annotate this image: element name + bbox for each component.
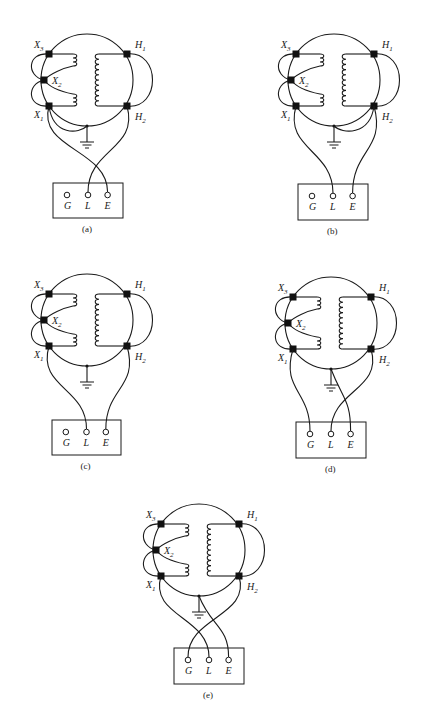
terminal-h1 <box>124 51 131 58</box>
jack-e <box>348 431 354 437</box>
jack-g <box>309 193 315 199</box>
diagram-canvas: X3X2X1H1H2GLE(a)X3X2X1H1H2GLE(b)X3X2X1H1… <box>0 0 425 711</box>
panel-caption: (c) <box>81 461 91 471</box>
panel-d: X3X2X1H1H2GLE(d) <box>275 277 396 474</box>
terminal-x3 <box>46 291 53 298</box>
label-x1: X1 <box>33 349 44 363</box>
label-h1: H1 <box>134 279 146 293</box>
jack-label-l: L <box>205 665 212 676</box>
label-h1: H1 <box>246 509 258 523</box>
label-x3: X3 <box>277 282 288 296</box>
panel-caption: (e) <box>203 690 213 700</box>
label-x3: X3 <box>280 39 291 53</box>
lead-x1-ground <box>49 106 87 131</box>
jack-label-l: L <box>327 439 334 450</box>
lead-l-x1 <box>159 576 209 657</box>
jack-label-e: E <box>102 437 109 448</box>
label-h1: H1 <box>381 39 393 53</box>
lead-l-x1 <box>294 106 333 193</box>
jack-label-g: G <box>309 201 316 212</box>
lead-g-x1 <box>290 349 310 431</box>
terminal-h1 <box>371 51 378 58</box>
jack-label-e: E <box>225 665 232 676</box>
terminal-h1 <box>368 294 375 301</box>
label-x1: X1 <box>33 109 44 123</box>
terminal-x2 <box>288 77 295 84</box>
jack-label-g: G <box>185 665 192 676</box>
terminal-x2 <box>153 547 160 554</box>
jack-label-g: G <box>63 437 70 448</box>
jumper-h1-h2 <box>127 294 153 346</box>
lead-e-x1 <box>48 106 108 192</box>
panel-caption: (d) <box>325 464 336 474</box>
jack-e <box>103 429 109 435</box>
jack-l <box>206 657 212 663</box>
jack-label-e: E <box>349 201 356 212</box>
lead-e-h2 <box>353 106 377 193</box>
terminal-x3 <box>290 294 297 301</box>
jack-l <box>84 429 90 435</box>
jack-g <box>63 429 69 435</box>
jack-l <box>330 193 336 199</box>
jack-g <box>185 657 191 663</box>
label-x3: X3 <box>33 279 44 293</box>
panel-a: X3X2X1H1H2GLE(a) <box>31 34 152 234</box>
jack-label-g: G <box>307 439 314 450</box>
terminal-h1 <box>236 521 243 528</box>
terminal-x2 <box>285 320 292 327</box>
panel-b: X3X2X1H1H2GLE(b) <box>278 34 399 236</box>
terminal-x2 <box>41 77 48 84</box>
jumper-h1-h2 <box>371 297 397 349</box>
panel-e: X3X2X1H1H2GLE(e) <box>143 504 264 700</box>
label-h2: H2 <box>134 111 146 125</box>
jack-g <box>64 192 70 198</box>
jack-e <box>226 657 232 663</box>
jack-e <box>105 192 111 198</box>
jack-label-l: L <box>83 437 90 448</box>
label-x1: X1 <box>145 579 156 593</box>
lead-e-h2 <box>106 346 130 429</box>
jack-g <box>307 431 313 437</box>
jack-l <box>85 192 91 198</box>
ground-icon <box>80 366 94 388</box>
terminal-h1 <box>124 291 131 298</box>
jack-l <box>328 431 334 437</box>
jack-e <box>350 193 356 199</box>
jack-label-e: E <box>104 200 111 211</box>
jumper-h1-h2 <box>239 524 265 576</box>
lead-l-x1 <box>47 346 86 429</box>
label-x3: X3 <box>145 509 156 523</box>
panel-caption: (b) <box>327 226 338 236</box>
lead-h2-ground <box>334 106 374 131</box>
label-x1: X1 <box>280 109 291 123</box>
jumper-h1-h2 <box>127 54 153 106</box>
lead-g-h2 <box>188 576 241 657</box>
label-h2: H2 <box>246 581 258 595</box>
jumper-h1-h2 <box>374 54 400 106</box>
panel-caption: (a) <box>82 224 92 234</box>
lead-l-h2 <box>331 349 373 431</box>
label-h1: H1 <box>378 282 390 296</box>
terminal-x2 <box>41 317 48 324</box>
jack-label-l: L <box>329 201 336 212</box>
lead-l-h2 <box>88 106 129 192</box>
label-h2: H2 <box>378 354 390 368</box>
panel-c: X3X2X1H1H2GLE(c) <box>31 274 152 471</box>
label-h1: H1 <box>134 39 146 53</box>
jack-label-l: L <box>84 200 91 211</box>
label-x3: X3 <box>33 39 44 53</box>
label-h2: H2 <box>381 111 393 125</box>
terminal-x3 <box>293 51 300 58</box>
jack-label-e: E <box>347 439 354 450</box>
terminal-x3 <box>46 51 53 58</box>
jack-label-g: G <box>64 200 71 211</box>
label-h2: H2 <box>134 351 146 365</box>
label-x1: X1 <box>277 352 288 366</box>
terminal-x3 <box>158 521 165 528</box>
